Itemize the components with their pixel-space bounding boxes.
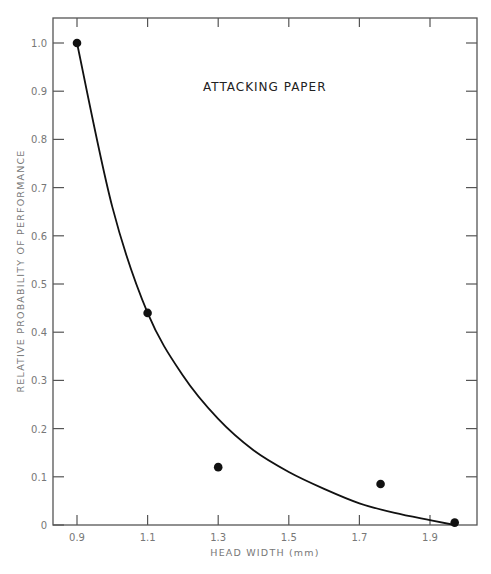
y-tick-label: 0 (41, 520, 47, 531)
y-tick-label: 1.0 (31, 38, 47, 49)
y-tick-label: 0.1 (31, 472, 47, 483)
x-axis-ticks: 0.91.11.31.51.71.9 (69, 18, 438, 543)
data-point (376, 480, 385, 489)
data-point (73, 39, 82, 48)
y-tick-label: 0.9 (31, 86, 47, 97)
y-tick-label: 0.6 (31, 231, 47, 242)
x-tick-label: 1.9 (422, 532, 438, 543)
x-tick-label: 1.1 (140, 532, 156, 543)
data-points (73, 39, 459, 527)
y-axis-label: RELATIVE PROBABILITY OF PERFORMANCE (15, 149, 26, 392)
plot-border (53, 18, 477, 525)
x-tick-label: 1.7 (351, 532, 367, 543)
x-tick-label: 1.3 (210, 532, 226, 543)
y-tick-label: 0.2 (31, 424, 47, 435)
y-tick-label: 0.7 (31, 183, 47, 194)
fitted-curve-line (77, 43, 455, 525)
y-tick-label: 0.5 (31, 279, 47, 290)
y-axis-ticks: 00.10.20.30.40.50.60.70.80.91.0 (31, 38, 477, 531)
fitted-curve (77, 43, 455, 525)
y-tick-label: 0.3 (31, 375, 47, 386)
data-point (214, 463, 223, 472)
chart-title: ATTACKING PAPER (203, 80, 327, 94)
plot-frame (53, 18, 477, 525)
y-tick-label: 0.4 (31, 327, 47, 338)
chart: 00.10.20.30.40.50.60.70.80.91.0 0.91.11.… (0, 0, 491, 574)
data-point (143, 309, 152, 318)
data-point (450, 518, 459, 527)
x-tick-label: 0.9 (69, 532, 85, 543)
x-axis-label: HEAD WIDTH (mm) (210, 547, 319, 558)
y-tick-label: 0.8 (31, 134, 47, 145)
x-tick-label: 1.5 (281, 532, 297, 543)
